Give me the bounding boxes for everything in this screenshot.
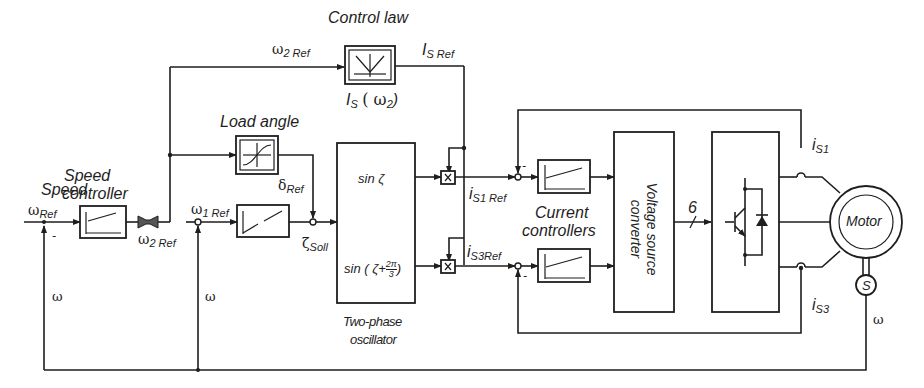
vsc-label: Voltage sourceconverter [628, 165, 660, 293]
limiter-icon [138, 216, 158, 228]
control-law-label: Control law [328, 10, 408, 26]
minus-sign-is1: - [522, 160, 526, 172]
is-ref-label: IS Ref [422, 42, 454, 60]
omega1-ref-label: ω1 Ref [191, 202, 229, 219]
speed-controller-label-line2: controller [62, 186, 128, 202]
is3-label: iS3 [812, 297, 829, 315]
oscillator-output-sin: sin ζ [358, 172, 384, 185]
omega-feedback-label-1: ω [52, 290, 63, 303]
omega2-ref-label-top: ω2 Ref [272, 42, 310, 59]
omega-motor-label: ω [873, 313, 884, 326]
delta-ref-label: δRef [278, 178, 304, 195]
zeta-soll-label: ζSoll [302, 236, 328, 253]
is3-ref-label: iS3Ref [467, 244, 501, 262]
minus-sign-speed: - [52, 230, 56, 242]
current-controllers-label-2: controllers [522, 223, 596, 239]
oscillator-output-sin-shifted: sin ( ζ+2π3) [344, 260, 401, 279]
sum-junction-is1 [515, 174, 521, 180]
omega-feedback-label-2: ω [205, 290, 216, 303]
current-controllers-label-1: Current [535, 205, 588, 221]
block-diagram [0, 0, 924, 388]
omega2-ref-label-bottom: ω2 Ref [138, 232, 176, 249]
control-law-function-label: IS ( ω2) [346, 92, 398, 110]
speed-controller-label-line1: Speed [64, 168, 110, 184]
sum-junction-omega1 [195, 219, 201, 225]
is1-label: iS1 [812, 137, 829, 155]
current-controller-2 [538, 249, 590, 282]
oscillator-label-line2: oscillator [350, 333, 396, 346]
current-controller-1 [538, 160, 590, 193]
motor-label: Motor [846, 214, 882, 228]
bus-width-label: 6 [688, 200, 697, 216]
oscillator-label-line1: Two-phase [343, 315, 402, 328]
load-angle-label: Load angle [220, 114, 299, 130]
sum-junction-zeta [310, 219, 316, 225]
omega-ref-label: ωRef [28, 203, 57, 220]
sum-junction-is3 [515, 263, 521, 269]
minus-sign-is3: - [523, 270, 527, 282]
two-phase-oscillator-block [337, 143, 415, 303]
is1-ref-label: iS1 Ref [469, 186, 506, 204]
sensor-label: S [862, 279, 871, 292]
